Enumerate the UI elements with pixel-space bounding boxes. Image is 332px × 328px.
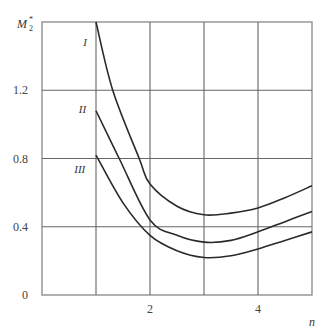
x-tick-label: 4 xyxy=(255,302,261,316)
curve-annotation: III xyxy=(73,163,86,175)
y-axis-label-sup: * xyxy=(29,15,33,24)
y-axis-label-sub: 2 xyxy=(29,24,33,33)
x-axis-label: n xyxy=(309,315,315,328)
grid xyxy=(42,22,312,295)
curve-annotation: I xyxy=(82,36,88,48)
y-tick-label: 0.4 xyxy=(13,220,28,234)
labels: 00.40.81.224nM2*IIIIII xyxy=(13,15,315,328)
curve-annotation: II xyxy=(78,103,88,115)
y-axis-label: M xyxy=(16,17,28,31)
y-tick-label: 0.8 xyxy=(13,152,28,166)
x-tick-label: 2 xyxy=(147,302,153,316)
y-tick-label: 0 xyxy=(22,288,28,302)
y-tick-label: 1.2 xyxy=(13,83,28,97)
chart: 00.40.81.224nM2*IIIIII xyxy=(0,0,332,328)
